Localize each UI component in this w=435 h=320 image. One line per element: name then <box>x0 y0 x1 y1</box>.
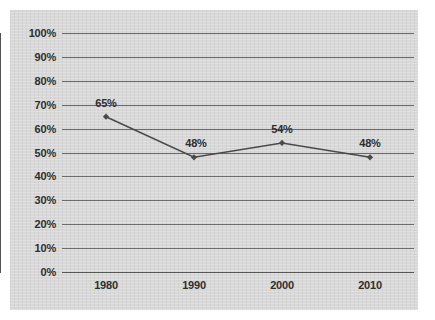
y-axis-tick-label: 60% <box>35 123 56 135</box>
series-polyline <box>106 117 370 158</box>
x-axis-tick-labels: 1980199020002010 <box>0 279 435 299</box>
data-point-marker <box>279 140 285 146</box>
data-point-label: 48% <box>185 137 206 149</box>
x-axis-tick-label: 2010 <box>358 279 382 291</box>
y-axis-tick-label: 100% <box>29 27 56 39</box>
data-series-line <box>62 33 414 272</box>
chart-figure: 0%10%20%30%40%50%60%70%80%90%100% 198019… <box>0 0 435 320</box>
data-point-label: 54% <box>271 123 292 135</box>
y-axis-tick-label: 40% <box>35 170 56 182</box>
x-axis-tick-label: 1990 <box>182 279 206 291</box>
data-point-label: 48% <box>359 137 380 149</box>
y-axis-tick-label: 10% <box>35 242 56 254</box>
y-axis-tick-label: 80% <box>35 75 56 87</box>
y-axis-tick-label: 70% <box>35 99 56 111</box>
x-axis-tick-label: 2000 <box>270 279 294 291</box>
x-axis-line <box>62 272 414 273</box>
data-point-marker <box>103 114 109 120</box>
data-point-label: 65% <box>95 97 116 109</box>
y-axis-tick-labels: 0%10%20%30%40%50%60%70%80%90%100% <box>8 33 56 272</box>
y-axis-line <box>0 33 1 273</box>
data-point-marker <box>367 154 373 160</box>
y-axis-tick-label: 30% <box>35 194 56 206</box>
data-point-marker <box>191 154 197 160</box>
y-axis-tick-label: 0% <box>41 266 57 278</box>
x-axis-tick-label: 1980 <box>94 279 118 291</box>
y-axis-tick-label: 20% <box>35 218 56 230</box>
y-axis-tick-label: 50% <box>35 147 56 159</box>
y-axis-tick-label: 90% <box>35 51 56 63</box>
